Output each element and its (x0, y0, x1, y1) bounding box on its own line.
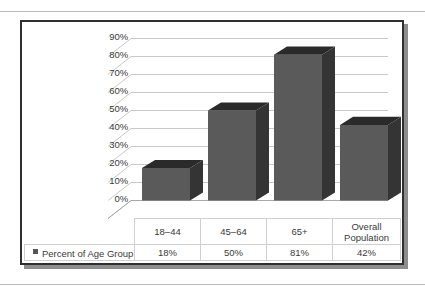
table-cell-category-1: 45–64 (201, 219, 267, 245)
legend-label: Percent of Age Group (42, 247, 133, 258)
y-tick-80: 80% (109, 50, 128, 60)
bar-45-64 (208, 102, 269, 200)
y-tick-30: 30% (109, 140, 128, 150)
bar-18-44 (142, 160, 203, 201)
table-cell-category-3: Overall Population (333, 219, 401, 245)
page-rule-bottom (0, 284, 425, 285)
plot-area: 90% 80% 70% 60% 50% 40% 30% 20% 10% 0% (22, 22, 402, 263)
table-cell-category-2: 65+ (267, 219, 333, 245)
square-marker-icon (33, 249, 38, 254)
table-row-values: Percent of Age Group 18% 50% 81% 42% (25, 245, 401, 261)
y-tick-50: 50% (109, 104, 128, 114)
bar-65-plus (274, 47, 335, 201)
y-tick-70: 70% (109, 68, 128, 78)
y-tick-0: 0% (114, 194, 128, 204)
table-cell-value-2: 81% (267, 245, 333, 261)
y-tick-90: 90% (109, 32, 128, 42)
table-cell-value-0: 18% (135, 245, 201, 261)
table-cell-corner (25, 219, 135, 245)
axis-baseline (108, 201, 388, 219)
table-cell-category-0: 18–44 (135, 219, 201, 245)
bar-overall-population (340, 117, 401, 201)
y-axis-tick-labels: 90% 80% 70% 60% 50% 40% 30% 20% 10% 0% (74, 32, 128, 212)
table-row-categories: 18–44 45–64 65+ Overall Population (25, 219, 401, 245)
y-tick-10: 10% (109, 176, 128, 186)
table-cell-value-1: 50% (201, 245, 267, 261)
page-rule-top (0, 11, 425, 12)
y-tick-60: 60% (109, 86, 128, 96)
legend-entry: Percent of Age Group (25, 245, 135, 261)
chart-data-table: 18–44 45–64 65+ Overall Population Perce… (24, 218, 401, 261)
table-cell-value-3: 42% (333, 245, 401, 261)
chart-figure: 90% 80% 70% 60% 50% 40% 30% 20% 10% 0% (20, 20, 404, 265)
y-tick-20: 20% (109, 158, 128, 168)
y-tick-40: 40% (109, 122, 128, 132)
